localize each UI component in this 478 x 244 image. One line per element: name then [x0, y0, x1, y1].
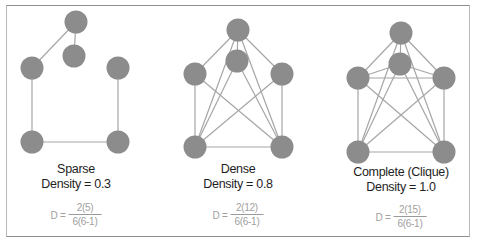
- formula-numerator: 2(12): [232, 202, 262, 214]
- node-circle: [184, 63, 207, 86]
- formula-fraction: 2(5) 6(6-1): [69, 202, 102, 228]
- formula-numerator: 2(15): [395, 204, 425, 216]
- node-circle: [389, 53, 412, 76]
- graph-title: Sparse: [41, 162, 110, 177]
- dense-formula: D = 2(12) 6(6-1): [213, 202, 264, 228]
- node-circle: [271, 136, 294, 159]
- node-circle: [107, 57, 130, 80]
- complete-graph: [358, 33, 444, 152]
- node-circle: [347, 67, 370, 90]
- formula-denominator: 6(6-1): [231, 215, 264, 228]
- sparse-caption: Sparse Density = 0.3: [41, 162, 110, 192]
- complete-nodes: [347, 22, 456, 164]
- sparse-formula: D = 2(5) 6(6-1): [51, 202, 102, 228]
- node-circle: [433, 67, 456, 90]
- node-circle: [21, 131, 44, 154]
- node-circle: [390, 22, 413, 45]
- graph-title: Dense: [203, 162, 272, 177]
- formula-denominator: 6(6-1): [69, 215, 102, 228]
- dense-caption: Dense Density = 0.8: [203, 162, 272, 192]
- node-circle: [433, 141, 456, 164]
- complete-caption: Complete (Clique) Density = 1.0: [353, 165, 449, 195]
- node-circle: [65, 11, 88, 34]
- sparse-graph: [32, 22, 118, 142]
- density-label: Density = 1.0: [353, 180, 449, 195]
- node-circle: [21, 57, 44, 80]
- formula-lhs: D =: [213, 210, 228, 221]
- formula-fraction: 2(15) 6(6-1): [394, 204, 427, 230]
- node-circle: [227, 19, 250, 42]
- formula-denominator: 6(6-1): [394, 217, 427, 230]
- node-circle: [226, 50, 249, 73]
- dense-graph: [195, 30, 282, 147]
- formula-fraction: 2(12) 6(6-1): [231, 202, 264, 228]
- formula-numerator: 2(5): [73, 202, 98, 214]
- formula-lhs: D =: [51, 210, 66, 221]
- node-circle: [184, 136, 207, 159]
- formula-lhs: D =: [376, 212, 391, 223]
- node-circle: [347, 141, 370, 164]
- node-circle: [271, 63, 294, 86]
- density-label: Density = 0.3: [41, 177, 110, 192]
- graph-title: Complete (Clique): [353, 165, 449, 180]
- complete-formula: D = 2(15) 6(6-1): [376, 204, 427, 230]
- dense-nodes: [184, 19, 294, 159]
- node-circle: [107, 131, 130, 154]
- sparse-nodes: [21, 11, 130, 154]
- node-circle: [63, 45, 86, 68]
- density-label: Density = 0.8: [203, 177, 272, 192]
